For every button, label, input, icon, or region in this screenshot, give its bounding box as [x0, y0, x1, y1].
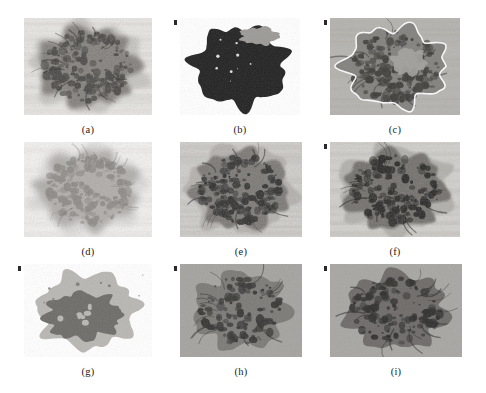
- panel-corner-tick-i: [324, 266, 327, 271]
- figure-panel-c: (c): [330, 18, 460, 137]
- panel-image-i: [330, 264, 462, 357]
- panel-caption-d: (d): [24, 246, 152, 258]
- panel-caption-h: (h): [180, 366, 302, 378]
- panel-caption-c: (c): [330, 124, 460, 136]
- figure-panel-f: (f): [330, 142, 460, 259]
- figure-panel-e: (e): [180, 142, 302, 259]
- panel-image-b: [180, 18, 300, 115]
- panel-caption-a: (a): [24, 124, 152, 136]
- figure-panel-d: (d): [24, 142, 152, 259]
- figure-panel-g: (g): [24, 264, 152, 379]
- panel-corner-tick-b: [174, 20, 177, 25]
- panel-image-e: [180, 142, 302, 237]
- figure-panel-grid: (a)(b)(c)(d)(e)(f)(g)(h)(i): [0, 0, 486, 393]
- panel-caption-b: (b): [180, 124, 300, 136]
- panel-image-c: [330, 18, 460, 115]
- figure-panel-h: (h): [180, 264, 302, 379]
- figure-panel-a: (a): [24, 18, 152, 137]
- panel-corner-tick-c: [324, 20, 327, 25]
- panel-image-h: [180, 264, 302, 357]
- panel-image-d: [24, 142, 152, 237]
- panel-caption-i: (i): [330, 366, 462, 378]
- figure-panel-i: (i): [330, 264, 462, 379]
- panel-image-a: [24, 18, 152, 115]
- panel-caption-e: (e): [180, 246, 302, 258]
- panel-image-g: [24, 264, 152, 357]
- panel-corner-tick-f: [324, 144, 327, 149]
- panel-image-f: [330, 142, 460, 237]
- panel-corner-tick-h: [174, 266, 177, 271]
- figure-panel-b: (b): [180, 18, 300, 137]
- panel-caption-g: (g): [24, 366, 152, 378]
- panel-corner-tick-g: [18, 266, 21, 271]
- panel-caption-f: (f): [330, 246, 460, 258]
